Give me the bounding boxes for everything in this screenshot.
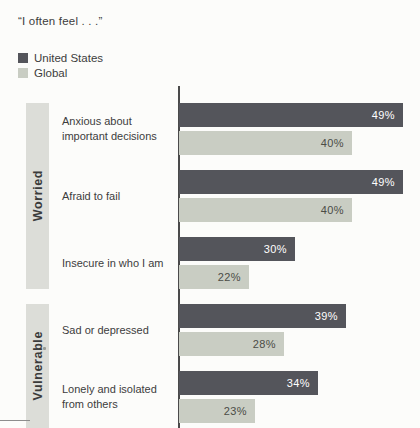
bar-value-label: 40% bbox=[321, 131, 344, 155]
category-label: Lonely and isolated from others bbox=[62, 371, 176, 423]
bar-value-label: 28% bbox=[253, 332, 276, 356]
bar-value-label: 34% bbox=[287, 371, 310, 395]
bar-value-label: 22% bbox=[218, 265, 241, 289]
bar-value-label: 30% bbox=[264, 237, 287, 261]
chart-title: “I often feel . . .” bbox=[18, 15, 103, 27]
group-strip-vulnerable: Vulnerable bbox=[26, 304, 49, 428]
bar-global: 23% bbox=[179, 399, 255, 423]
category-label: Sad or depressed bbox=[62, 304, 176, 356]
group-label-worried: Worried bbox=[31, 170, 45, 221]
legend-label: United States bbox=[34, 52, 103, 64]
chart-canvas: “I often feel . . .” United States Globa… bbox=[0, 0, 420, 428]
bar-united-states: 49% bbox=[179, 103, 403, 127]
bar-value-label: 40% bbox=[321, 198, 344, 222]
bar-united-states: 49% bbox=[179, 170, 403, 194]
legend-item-united-states: United States bbox=[18, 50, 103, 65]
bottom-edge-line bbox=[0, 420, 30, 421]
category-label: Anxious about important decisions bbox=[62, 103, 176, 155]
bar-global: 22% bbox=[179, 265, 249, 289]
vulnerable-label-dot bbox=[43, 347, 46, 350]
bar-value-label: 39% bbox=[315, 304, 338, 328]
legend-label: Global bbox=[34, 67, 67, 79]
bar-global: 40% bbox=[179, 131, 352, 155]
group-label-vulnerable: Vulnerable bbox=[31, 331, 45, 400]
global-swatch-icon bbox=[18, 68, 28, 78]
united-states-swatch-icon bbox=[18, 53, 28, 63]
bar-united-states: 34% bbox=[179, 371, 318, 395]
bar-value-label: 49% bbox=[372, 103, 395, 127]
bar-global: 28% bbox=[179, 332, 284, 356]
legend: United States Global bbox=[18, 50, 103, 80]
category-label: Afraid to fail bbox=[62, 170, 176, 222]
legend-item-global: Global bbox=[18, 65, 103, 80]
group-strip-worried: Worried bbox=[26, 103, 49, 289]
bar-united-states: 30% bbox=[179, 237, 295, 261]
bar-value-label: 23% bbox=[224, 399, 247, 423]
bar-united-states: 39% bbox=[179, 304, 346, 328]
bar-global: 40% bbox=[179, 198, 352, 222]
bar-value-label: 49% bbox=[372, 170, 395, 194]
category-label: Insecure in who I am bbox=[62, 237, 176, 289]
